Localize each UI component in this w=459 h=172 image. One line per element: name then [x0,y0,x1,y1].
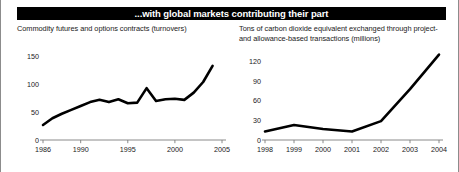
y-axis-tick-label: 0 [35,136,39,145]
y-axis-tick-label: 120 [249,57,261,66]
figure-container: ...with global markets contributing thei… [0,0,459,172]
line-chart-commodity: 05010015019861990199520002005 [17,44,229,162]
y-axis-tick-label: 60 [253,96,261,105]
x-axis-tick-label: 1999 [286,145,302,154]
x-axis-tick-label: 2004 [431,145,447,154]
x-axis-tick-label: 1995 [120,145,136,154]
x-axis-tick-label: 2001 [344,145,360,154]
y-axis-tick-label: 100 [27,80,39,89]
y-axis-tick-label: 150 [27,52,39,61]
x-axis-tick-label: 2005 [214,145,230,154]
x-axis-tick-label: 2003 [402,145,418,154]
x-axis-tick-label: 1986 [35,145,51,154]
chart-caption-commodity: Commodity futures and options contracts … [17,24,229,44]
x-axis-tick-label: 2000 [167,145,183,154]
chart-panel-carbon: Tons of carbon dioxide equivalent exchan… [239,24,447,164]
y-axis-tick-label: 50 [31,108,39,117]
y-axis-tick-label: 90 [253,77,261,86]
plot-area-carbon: 03060901201998199920002001200220032004 [239,44,447,162]
y-axis-tick-label: 30 [253,116,261,125]
x-axis-tick-label: 1998 [257,145,273,154]
data-series-line [265,55,439,132]
x-axis-tick-label: 1990 [73,145,89,154]
chart-panel-commodity: Commodity futures and options contracts … [17,24,229,164]
y-axis-tick-label: 0 [257,136,261,145]
line-chart-carbon: 03060901201998199920002001200220032004 [239,44,447,162]
x-axis-tick-label: 2002 [373,145,389,154]
plot-area-commodity: 05010015019861990199520002005 [17,44,229,162]
data-series-line [43,66,213,125]
x-axis-tick-label: 2000 [315,145,331,154]
chart-caption-carbon: Tons of carbon dioxide equivalent exchan… [239,24,447,44]
figure-banner-title: ...with global markets contributing thei… [17,7,446,20]
